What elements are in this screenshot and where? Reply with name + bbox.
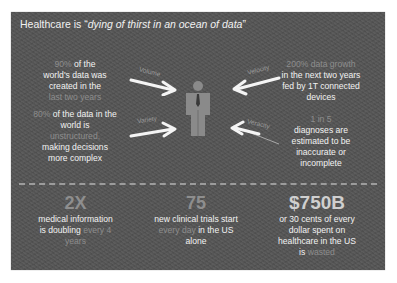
fact-diagnoses: 1 in 5 diagnoses are estimated to be ina… [273,114,369,169]
fact-text: inaccurate or [296,147,346,157]
fact-data-growth: 200% data growth in the next two years f… [267,59,375,103]
fact-text: world's data was [43,70,106,80]
person-with-tie-icon [183,80,213,138]
fact-highlight: 90% [54,59,71,69]
fact-highlight: 80% [33,109,50,119]
fact-highlight: 1 in 5 [310,114,331,124]
section-divider [19,183,377,185]
fact-text: diagnoses are [294,125,348,135]
stat-highlight: every day [158,225,195,235]
stat-text: alone [185,236,206,246]
arrow-left-down-icon [231,74,281,96]
fact-text: incomplete [300,158,342,168]
fact-text: making decisions [42,142,108,152]
stat-value: $750B [259,193,375,213]
stat-clinical-trials: 75 new clinical trials start every day i… [141,193,251,247]
stat-value: 75 [141,193,251,213]
arrow-right-down-icon [129,74,179,96]
fact-text: fed by 1T connected [282,81,360,91]
stat-value: 2X [23,193,128,213]
fact-text: estimated to be [292,136,351,146]
stat-text: is [299,247,308,257]
fact-text: devices [306,92,335,102]
fact-text: of the [72,59,96,69]
fact-text: world is [60,120,89,130]
fact-text: of the data in the [50,109,116,119]
stat-text: is doubling [40,225,83,235]
page-title: Healthcare is “dying of thirst in an oce… [20,18,246,30]
fact-world-data-created: 90% of the world's data was created in t… [25,59,125,103]
stat-highlight: every 4 [83,225,111,235]
fact-text: in the next two years [282,70,361,80]
stat-text: in the US [196,225,234,235]
stat-text: or 30 cents of every [279,214,354,224]
fact-highlight: unstructured, [50,131,100,141]
stat-text: new clinical trials start [154,214,238,224]
fact-unstructured-data: 80% of the data in the world is unstruct… [21,109,129,164]
fact-highlight: last two years [49,92,102,102]
stat-text: dollar spent on [289,225,345,235]
title-prefix: Healthcare is “ [20,18,88,30]
title-quote: dying of thirst in an ocean of data [88,18,243,30]
stat-highlight: years [65,236,86,246]
stat-text: healthcare in the US [278,236,356,246]
stat-highlight: wasted [308,247,335,257]
fact-text: created in the [49,81,101,91]
stat-medical-info: 2X medical information is doubling every… [23,193,128,247]
stat-healthcare-waste: $750B or 30 cents of every dollar spent … [259,193,375,258]
title-suffix: ” [242,18,246,30]
fact-text: more complex [48,153,102,163]
stat-text: medical information [38,214,113,224]
infographic-panel: Healthcare is “dying of thirst in an oce… [11,12,385,270]
fact-highlight: 200% data growth [286,59,355,69]
